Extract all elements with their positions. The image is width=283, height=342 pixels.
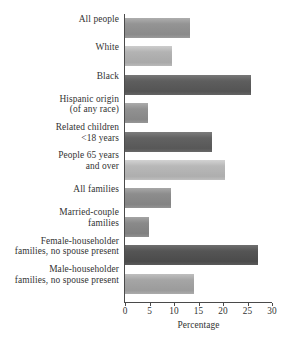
x-tick-label-10: 10 — [164, 306, 184, 317]
category-label-related-children: Related children <18 years — [0, 122, 119, 143]
category-labels: All people White Black Hispanic origin (… — [0, 14, 119, 302]
bar-row-black — [125, 71, 272, 99]
category-label-people-65-and-over: People 65 years and over — [0, 150, 119, 171]
category-label-male-householder: Male-householder families, no spouse pre… — [0, 264, 119, 285]
bar-row-related-children — [125, 128, 272, 156]
x-tick-label-20: 20 — [213, 306, 233, 317]
bar-row-people-65-and-over — [125, 156, 272, 184]
category-label-married-couple-families: Married-couple families — [0, 207, 119, 228]
plot-area — [125, 14, 272, 302]
bar-all-families — [125, 188, 171, 208]
x-axis-title: Percentage — [125, 320, 272, 330]
bar-row-female-householder — [125, 241, 272, 269]
bar-chart: All people White Black Hispanic origin (… — [0, 0, 283, 342]
bar-row-married-couple-families — [125, 213, 272, 241]
bar-row-all-people — [125, 14, 272, 42]
bar-related-children — [125, 132, 212, 152]
x-tick-label-0: 0 — [115, 306, 135, 317]
bar-row-male-householder — [125, 270, 272, 298]
x-tick-label-25: 25 — [238, 306, 258, 317]
bar-married-couple-families — [125, 217, 149, 237]
category-label-all-families: All families — [0, 184, 119, 195]
x-tick-label-15: 15 — [189, 306, 209, 317]
bar-row-hispanic-origin — [125, 99, 272, 127]
category-label-black: Black — [0, 71, 119, 82]
bar-all-people — [125, 18, 190, 38]
x-tick-label-30: 30 — [262, 306, 282, 317]
category-label-all-people: All people — [0, 14, 119, 25]
bar-black — [125, 75, 251, 95]
category-label-white: White — [0, 42, 119, 53]
category-label-hispanic-origin: Hispanic origin (of any race) — [0, 94, 119, 115]
bar-female-householder — [125, 245, 258, 265]
bar-hispanic-origin — [125, 103, 148, 123]
category-label-female-householder: Female-householder families, no spouse p… — [0, 236, 119, 257]
bar-row-white — [125, 42, 272, 70]
bar-people-65-and-over — [125, 160, 225, 180]
bar-white — [125, 46, 172, 66]
x-tick-label-5: 5 — [140, 306, 160, 317]
bar-row-all-families — [125, 184, 272, 212]
bar-male-householder — [125, 274, 194, 294]
